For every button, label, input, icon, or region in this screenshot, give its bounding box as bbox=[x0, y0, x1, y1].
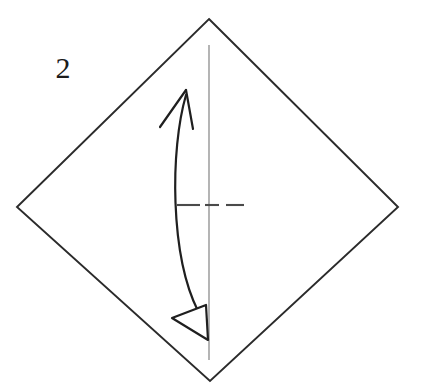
step-number-label: 2 bbox=[56, 51, 71, 84]
origami-diagram-svg: 2 bbox=[0, 0, 432, 384]
origami-diagram-canvas: 2 bbox=[0, 0, 432, 384]
